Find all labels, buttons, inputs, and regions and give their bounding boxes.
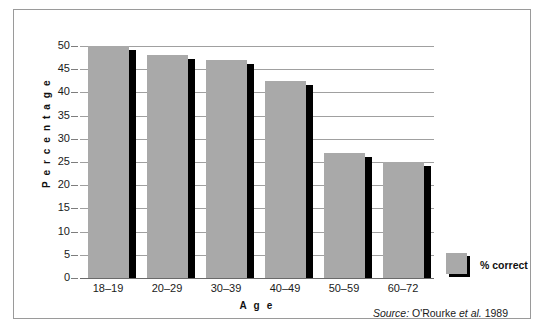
bar-shadow: [424, 166, 431, 278]
x-axis-tick-label: 50–59: [314, 282, 374, 294]
bar: [324, 153, 365, 278]
bar: [88, 46, 129, 278]
chart-legend: % correct: [446, 253, 528, 277]
y-axis-tick-label: 15: [30, 202, 70, 213]
x-axis-tick-labels: 18–1920–2930–3940–4950–5960–72: [80, 282, 434, 298]
legend-swatch-wrapper: [446, 253, 472, 277]
y-axis-tick-labels: 05101520253035404550: [26, 46, 70, 278]
source-year: 1989: [482, 307, 508, 319]
x-axis-tick-label: 60–72: [373, 282, 433, 294]
bar-group: [147, 55, 195, 278]
legend-label: % correct: [480, 259, 528, 271]
x-axis-tick-label: 18–19: [78, 282, 138, 294]
source-author: O'Rourke: [412, 307, 459, 319]
plot-area: [80, 46, 434, 278]
y-axis-tick: [71, 69, 78, 70]
bar-group: [88, 46, 136, 278]
bar: [147, 55, 188, 278]
y-axis-tick: [71, 208, 78, 209]
y-axis-tick-label: 45: [30, 63, 70, 74]
x-axis-tick-label: 30–39: [196, 282, 256, 294]
bar-group: [206, 60, 254, 278]
bar-group: [383, 162, 431, 278]
x-axis-tick-label: 20–29: [137, 282, 197, 294]
y-axis-tick: [71, 92, 78, 93]
bar: [383, 162, 424, 278]
source-note: Source: O'Rourke et al. 1989: [373, 307, 508, 319]
bar: [265, 81, 306, 278]
gridline: [80, 278, 434, 279]
bar-group: [265, 81, 313, 278]
y-axis-tick: [71, 185, 78, 186]
y-axis-tick: [71, 46, 78, 47]
y-axis-tick-label: 0: [30, 272, 70, 283]
source-prefix: Source:: [373, 307, 409, 319]
x-axis-tick-label: 40–49: [255, 282, 315, 294]
y-axis-tick: [71, 162, 78, 163]
bar-shadow: [365, 157, 372, 278]
chart-figure: P e r c e n t a g e 05101520253035404550…: [0, 0, 544, 330]
figure-frame: P e r c e n t a g e 05101520253035404550…: [13, 9, 531, 319]
bar-shadow: [188, 59, 195, 278]
y-axis-tick-label: 20: [30, 179, 70, 190]
y-axis-tick: [71, 116, 78, 117]
y-axis-tick-label: 5: [30, 249, 70, 260]
y-axis-tick-label: 50: [30, 40, 70, 51]
y-axis-tick-label: 30: [30, 133, 70, 144]
y-axis-tick-label: 25: [30, 156, 70, 167]
y-axis-tick-label: 10: [30, 226, 70, 237]
bar: [206, 60, 247, 278]
y-axis-tick-label: 40: [30, 86, 70, 97]
y-axis-tick: [71, 278, 78, 279]
y-axis-tick-label: 35: [30, 110, 70, 121]
bar-group: [324, 153, 372, 278]
y-axis-tick: [71, 255, 78, 256]
y-axis-tick: [71, 139, 78, 140]
legend-swatch: [446, 253, 467, 274]
bar-shadow: [129, 50, 136, 278]
bar-shadow: [247, 64, 254, 278]
bar-shadow: [306, 85, 313, 278]
y-axis-tick: [71, 232, 78, 233]
source-etal: et al.: [459, 307, 482, 319]
